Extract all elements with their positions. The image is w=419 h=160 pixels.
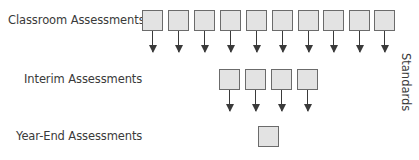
classroom-assessment-box	[194, 10, 215, 31]
down-arrow-icon	[282, 31, 283, 52]
classroom-assessment-box	[168, 10, 189, 31]
classroom-assessment-box	[220, 10, 241, 31]
classroom-assessment-box	[323, 10, 344, 31]
interim-assessment-box	[245, 69, 266, 90]
classroom-assessment-box	[374, 10, 395, 31]
interim-assessment-box	[219, 69, 240, 90]
row-label-classroom: Classroom Assessments	[8, 13, 145, 27]
down-arrow-icon	[281, 90, 282, 111]
row-label-year-end: Year-End Assessments	[16, 129, 142, 143]
down-arrow-icon	[256, 31, 257, 52]
down-arrow-icon	[230, 31, 231, 52]
down-arrow-icon	[384, 31, 385, 52]
down-arrow-icon	[178, 31, 179, 52]
down-arrow-icon	[307, 90, 308, 111]
row-label-interim: Interim Assessments	[24, 72, 142, 86]
classroom-assessment-box	[142, 10, 163, 31]
classroom-assessment-box	[272, 10, 293, 31]
standards-label: Standards	[399, 53, 413, 111]
interim-assessment-box	[297, 69, 318, 90]
down-arrow-icon	[229, 90, 230, 111]
interim-assessment-box	[271, 69, 292, 90]
down-arrow-icon	[255, 90, 256, 111]
down-arrow-icon	[359, 31, 360, 52]
classroom-assessment-box	[349, 10, 370, 31]
down-arrow-icon	[152, 31, 153, 52]
down-arrow-icon	[333, 31, 334, 52]
down-arrow-icon	[204, 31, 205, 52]
down-arrow-icon	[308, 31, 309, 52]
classroom-assessment-box	[298, 10, 319, 31]
classroom-assessment-box	[246, 10, 267, 31]
year-end-assessment-box	[258, 126, 279, 147]
